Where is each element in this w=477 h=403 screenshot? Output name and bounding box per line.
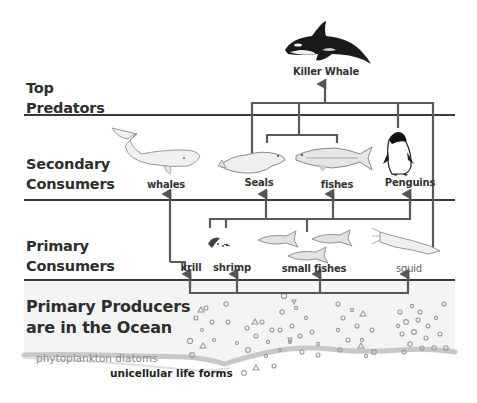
level-label-line: Primary: [26, 236, 115, 256]
small-fishes-illustration: [258, 230, 352, 263]
fish-illustration: [296, 147, 372, 172]
level-label-line: are in the Ocean: [26, 317, 190, 338]
label-squid: squid: [396, 263, 422, 274]
level-label-line: Primary Producers: [26, 296, 190, 317]
seal-illustration: [218, 152, 285, 173]
label-krill: krill: [181, 262, 202, 273]
level-label-secondary-consumers: Secondary Consumers: [26, 154, 115, 194]
level-label-line: Top: [26, 78, 105, 98]
shrimp-illustration: [208, 238, 230, 248]
level-label-primary-consumers: Primary Consumers: [26, 236, 115, 276]
food-web-diagram: Top Predators Secondary Consumers Primar…: [0, 0, 477, 403]
label-penguins: Penguins: [385, 177, 435, 188]
killer-whale-illustration: [285, 21, 371, 64]
squid-illustration: [372, 228, 440, 254]
label-whales: whales: [147, 179, 185, 190]
diagram-canvas: [0, 0, 477, 403]
label-seals: Seals: [244, 177, 273, 188]
whale-illustration: [112, 128, 200, 174]
penguin-illustration: [383, 133, 414, 176]
level-label-line: Secondary: [26, 154, 115, 174]
label-killer-whale: Killer Whale: [293, 66, 359, 77]
level-label-top-predators: Top Predators: [26, 78, 105, 118]
label-fishes: fishes: [321, 179, 353, 190]
label-small-fishes: small fishes: [282, 263, 347, 274]
level-label-line: Predators: [26, 98, 105, 118]
note-phytoplankton: phytoplankton diatoms: [36, 352, 158, 364]
level-label-line: Consumers: [26, 256, 115, 276]
note-unicellular: unicellular life forms: [110, 367, 233, 379]
label-shrimp: shrimp: [213, 262, 251, 273]
level-label-line: Consumers: [26, 174, 115, 194]
level-label-primary-producers: Primary Producers are in the Ocean: [26, 296, 190, 338]
